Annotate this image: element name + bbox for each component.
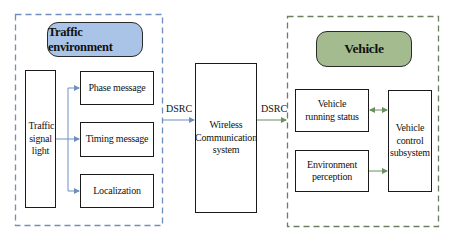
vehicle-running-status-node: Vehicle running status <box>295 89 369 132</box>
phase-message-label: Phase message <box>88 82 145 95</box>
phase-message-node: Phase message <box>80 71 154 105</box>
vehicle-title-text: Vehicle <box>344 41 383 57</box>
traffic-signal-light-label: Traffic signal light <box>29 120 53 158</box>
timing-message-label: Timing message <box>86 133 149 146</box>
dsrc-left-label: DSRC <box>166 103 192 114</box>
environment-perception-node: Environment perception <box>295 150 369 192</box>
vehicle-control-subsystem-label: Vehicle control subsystem <box>390 122 430 160</box>
traffic-signal-light-node: Traffic signal light <box>25 70 56 208</box>
wireless-communication-node: Wireless Communication system <box>195 63 257 213</box>
wireless-communication-label: Wireless Communication system <box>195 119 257 157</box>
traffic-environment-title-text: Traffic environment <box>48 25 142 55</box>
vehicle-title: Vehicle <box>316 31 412 67</box>
timing-message-node: Timing message <box>80 122 154 157</box>
traffic-environment-title: Traffic environment <box>47 22 143 57</box>
vehicle-control-subsystem-node: Vehicle control subsystem <box>388 90 432 192</box>
environment-perception-label: Environment perception <box>302 159 362 184</box>
vehicle-running-status-label: Vehicle running status <box>302 98 362 123</box>
localization-node: Localization <box>80 174 154 208</box>
localization-label: Localization <box>93 185 141 198</box>
dsrc-right-label: DSRC <box>261 103 287 114</box>
